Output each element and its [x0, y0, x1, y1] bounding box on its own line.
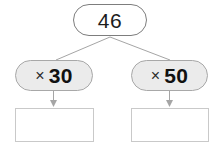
branch-line-left — [56, 37, 110, 60]
answer-box-right[interactable] — [131, 108, 209, 142]
arrow-head-left-icon — [50, 100, 57, 107]
start-number-node: 46 — [73, 4, 147, 36]
operation-node-left: × 30 — [15, 60, 93, 91]
operation-value-left: 30 — [49, 65, 73, 86]
branch-line-right — [110, 37, 170, 60]
start-number-value: 46 — [98, 10, 122, 31]
multiplication-branching-diagram: 46 × 30 × 50 — [0, 0, 220, 155]
arrow-head-right-icon — [166, 100, 173, 107]
operation-value-right: 50 — [164, 65, 188, 86]
answer-box-left[interactable] — [15, 108, 94, 142]
operation-node-right: × 50 — [131, 60, 208, 91]
multiply-sign-right-icon: × — [151, 68, 160, 84]
multiply-sign-left-icon: × — [35, 68, 44, 84]
